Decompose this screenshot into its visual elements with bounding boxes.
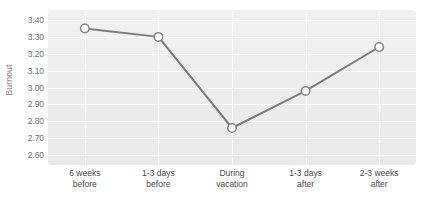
y-tick-label: 2.70 (28, 133, 44, 143)
y-tick-label: 2.90 (28, 99, 44, 109)
x-tick-label: Duringvacation (216, 168, 248, 189)
y-tick-label: 3.20 (28, 49, 44, 59)
data-point-marker: 6 weeks before: 3.35 (81, 24, 89, 32)
x-tick-label-line1: 2-3 weeks (360, 168, 399, 178)
y-axis-title: Burnout (0, 0, 18, 160)
data-point-marker: During vacation: 2.76 (228, 124, 236, 132)
x-tick-label-line1: 6 weeks (69, 168, 100, 178)
data-point-marker: 1-3 days before: 3.30 (154, 33, 162, 41)
x-tick-label-line1: 1-3 days (142, 168, 175, 178)
x-axis-tick-labels: 6 weeksbefore1-3 daysbeforeDuringvacatio… (48, 168, 416, 202)
x-tick-label-line2: after (289, 179, 322, 190)
y-tick-label: 2.60 (28, 150, 44, 160)
x-tick-label: 1-3 daysafter (289, 168, 322, 189)
x-tick-label: 1-3 daysbefore (142, 168, 175, 189)
y-tick-label: 3.40 (28, 15, 44, 25)
data-point-marker: 2-3 weeks after: 3.24 (375, 43, 383, 51)
x-tick-label-line1: During (219, 168, 244, 178)
x-tick-label-line2: before (142, 179, 175, 190)
y-tick-label: 2.80 (28, 116, 44, 126)
series-burnout: 6 weeks before: 3.351-3 days before: 3.3… (48, 10, 416, 165)
plot-area: 6 weeks before: 3.351-3 days before: 3.3… (48, 10, 416, 165)
series-line (85, 28, 379, 128)
x-tick-label-line1: 1-3 days (289, 168, 322, 178)
y-tick-label: 3.10 (28, 66, 44, 76)
x-tick-label-line2: vacation (216, 179, 248, 190)
x-tick-label: 2-3 weeksafter (360, 168, 399, 189)
x-tick-label-line2: after (360, 179, 399, 190)
x-tick-label-line2: before (69, 179, 100, 190)
burnout-line-chart: Burnout 3.403.303.203.103.002.902.802.70… (0, 0, 422, 202)
y-axis-title-label: Burnout (4, 64, 14, 95)
y-tick-label: 3.00 (28, 83, 44, 93)
y-axis-tick-labels: 3.403.303.203.103.002.902.802.702.60 (18, 0, 46, 202)
y-tick-label: 3.30 (28, 32, 44, 42)
data-point-marker: 1-3 days after: 2.98 (301, 87, 309, 95)
x-tick-label: 6 weeksbefore (69, 168, 100, 189)
